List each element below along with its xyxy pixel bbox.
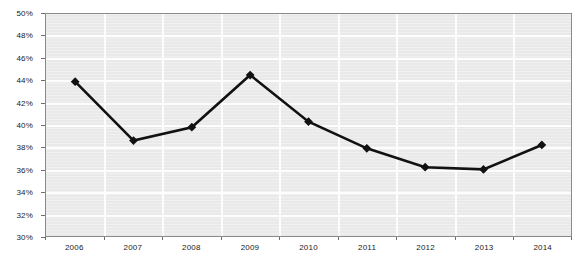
y-axis-tick-label: 42% [16,98,33,107]
y-axis-tick-label: 50% [16,9,33,18]
y-axis-tick-label: 34% [16,188,33,197]
x-axis-tick-label: 2008 [182,243,201,252]
data-point-marker[interactable] [362,144,371,153]
x-axis-tick-mark [455,237,456,240]
x-axis-tick-label: 2010 [299,243,318,252]
x-axis-tick-mark [45,237,46,240]
x-axis: 200620072008200920102011201220132014 [45,240,572,262]
x-axis-tick-mark [396,237,397,240]
x-axis-tick-label: 2007 [124,243,143,252]
x-axis-tick-label: 2013 [475,243,494,252]
y-axis-tick-label: 38% [16,143,33,152]
x-axis-tick-label: 2012 [416,243,435,252]
x-axis-tick-mark [513,237,514,240]
y-axis-tick-label: 36% [16,165,33,174]
x-axis-tick-label: 2006 [65,243,84,252]
y-axis-tick-label: 32% [16,210,33,219]
x-axis-tick-mark [338,237,339,240]
x-axis-tick-mark [571,237,572,240]
x-axis-tick-mark [221,237,222,240]
x-axis-tick-mark [279,237,280,240]
data-point-marker[interactable] [421,163,430,172]
line-chart-figure: 50%48%46%44%42%40%38%36%34%32%30% 200620… [0,0,582,265]
plot-area [45,13,572,237]
y-axis-tick-label: 40% [16,121,33,130]
x-axis-tick-mark [104,237,105,240]
data-series-line [46,14,571,236]
y-axis: 50%48%46%44%42%40%38%36%34%32%30% [0,0,42,265]
chart-title [60,0,360,5]
x-axis-tick-label: 2009 [241,243,260,252]
x-axis-tick-label: 2011 [358,243,376,252]
x-axis-tick-label: 2014 [533,243,552,252]
y-axis-tick-label: 30% [16,233,33,242]
x-axis-tick-mark [162,237,163,240]
data-point-marker[interactable] [479,165,488,174]
y-axis-tick-label: 48% [16,31,33,40]
data-point-marker[interactable] [537,141,546,150]
y-axis-tick-label: 46% [16,53,33,62]
y-axis-tick-label: 44% [16,76,33,85]
